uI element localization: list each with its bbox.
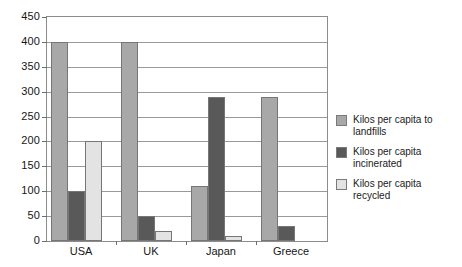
legend-item: Kilos per capita incinerated xyxy=(336,146,460,169)
bar-group xyxy=(187,17,257,241)
y-axis-label: 50 xyxy=(2,210,40,221)
bar xyxy=(121,42,138,241)
x-axis-label-greece: Greece xyxy=(256,245,326,258)
bar-group xyxy=(117,17,187,241)
y-axis-label: 250 xyxy=(2,111,40,122)
legend-label: Kilos per capita to landfills xyxy=(353,114,460,137)
y-axis-label: 300 xyxy=(2,86,40,97)
plot-area xyxy=(46,16,328,242)
y-axis-label: 450 xyxy=(2,11,40,22)
legend-swatch-icon xyxy=(336,115,347,126)
x-axis-tick xyxy=(116,241,117,245)
y-axis-label: 400 xyxy=(2,36,40,47)
bar-group xyxy=(257,17,327,241)
x-axis: USAUKJapanGreece xyxy=(46,245,328,263)
y-axis-label: 100 xyxy=(2,185,40,196)
legend-item: Kilos per capita recycled xyxy=(336,178,460,201)
legend-swatch-icon xyxy=(336,147,347,158)
bar-chart: 050100150200250300350400450 USAUKJapanGr… xyxy=(0,0,462,267)
bar xyxy=(138,216,155,241)
legend-swatch-icon xyxy=(336,179,347,190)
x-axis-label-japan: Japan xyxy=(186,245,256,258)
bar xyxy=(208,97,225,241)
y-axis-tick xyxy=(42,241,47,242)
x-axis-label-usa: USA xyxy=(46,245,116,258)
legend-label: Kilos per capita recycled xyxy=(353,178,460,201)
bar xyxy=(191,186,208,241)
bar xyxy=(261,97,278,241)
y-axis-label: 150 xyxy=(2,160,40,171)
y-axis-label: 200 xyxy=(2,135,40,146)
x-axis-label-uk: UK xyxy=(116,245,186,258)
bar xyxy=(51,42,68,241)
bar xyxy=(68,191,85,241)
bar xyxy=(155,231,172,241)
legend-label: Kilos per capita incinerated xyxy=(353,146,460,169)
chart-legend: Kilos per capita to landfillsKilos per c… xyxy=(336,114,460,210)
bar xyxy=(278,226,295,241)
x-axis-tick xyxy=(256,241,257,245)
x-axis-tick xyxy=(186,241,187,245)
bar xyxy=(85,141,102,241)
y-axis-label: 350 xyxy=(2,61,40,72)
bar-group xyxy=(47,17,117,241)
legend-item: Kilos per capita to landfills xyxy=(336,114,460,137)
y-axis: 050100150200250300350400450 xyxy=(0,0,40,267)
y-axis-label: 0 xyxy=(2,235,40,246)
bar xyxy=(225,236,242,241)
